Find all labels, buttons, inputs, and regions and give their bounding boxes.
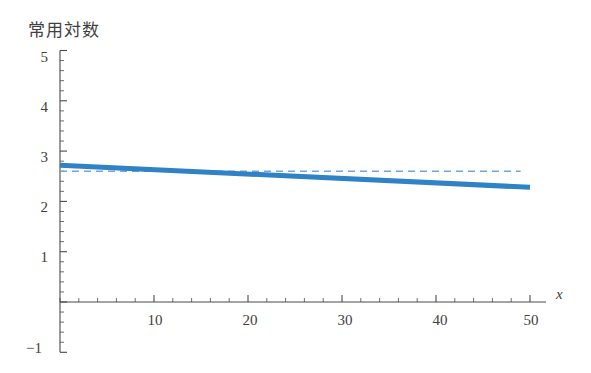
chart-canvas <box>0 0 591 373</box>
chart-figure: 常用対数 x 5 4 3 2 1 −1 10 20 30 40 50 <box>0 0 591 373</box>
y-axis <box>60 51 67 353</box>
series-solid-trend-line <box>60 165 530 187</box>
x-axis <box>60 295 546 302</box>
